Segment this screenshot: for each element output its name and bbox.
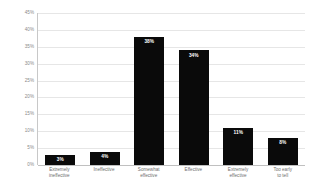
x-axis-tick-labels: ExtremelyineffectiveIneffectiveSomewhate… [37,167,305,191]
x-axis-tick-label: Too earlyto tell [260,167,305,191]
y-axis-tick-label: 40% [14,27,34,32]
y-axis-tick-label: 5% [14,146,34,151]
bar-slot: 8% [261,13,306,165]
x-axis-tick-label: Ineffective [82,167,127,191]
bar-value-label: 38% [144,37,154,46]
y-axis-tick-labels: 0%5%10%15%20%25%30%35%40%45% [14,13,34,165]
bar-value-label: 11% [234,128,243,137]
bar[interactable]: 11% [223,128,253,165]
bar[interactable]: 4% [90,152,120,166]
bar-slot: 38% [127,13,172,165]
bar-slot: 11% [216,13,261,165]
plot-area: 3%4%38%34%11%8% [37,13,305,165]
x-axis-tick-label: Extremelyineffective [37,167,82,191]
y-axis-tick-label: 35% [14,44,34,49]
x-axis-tick-label: Extremelyeffective [216,167,261,191]
y-axis-tick-label: 30% [14,61,34,66]
bar-value-label: 3% [57,155,64,164]
y-axis-tick-label: 20% [14,95,34,100]
x-axis-tick-label-line: Effective [172,167,215,173]
x-axis-tick-label: Effective [171,167,216,191]
bar-value-label: 34% [189,50,199,59]
y-axis-tick-label: 45% [14,10,34,15]
x-axis-tick-label-line: to tell [261,173,304,179]
y-axis-tick-label: 10% [14,129,34,134]
bar-slot: 4% [83,13,128,165]
x-axis-tick-label-line: ineffective [38,173,81,179]
x-axis-tick-label-line: effective [217,173,260,179]
bars-group: 3%4%38%34%11%8% [38,13,305,165]
bar-chart: Percent of respondents 0%5%10%15%20%25%3… [0,0,313,195]
bar-slot: 3% [38,13,83,165]
bar[interactable]: 34% [179,50,209,165]
bar[interactable]: 38% [134,37,164,165]
x-axis-tick-label: Somewhateffective [126,167,171,191]
bar-slot: 34% [172,13,217,165]
bar-value-label: 4% [101,152,108,161]
x-axis-tick-label-line: effective [127,173,170,179]
gridline [38,165,305,166]
bar-value-label: 8% [279,138,286,147]
bar[interactable]: 8% [268,138,298,165]
y-axis-tick-label: 15% [14,112,34,117]
bar[interactable]: 3% [45,155,75,165]
y-axis-tick-label: 25% [14,78,34,83]
y-axis-tick-label: 0% [14,162,34,167]
x-axis-tick-label-line: Ineffective [83,167,126,173]
